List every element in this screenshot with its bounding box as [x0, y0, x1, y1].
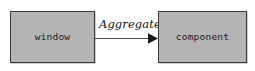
- aggregate-relation-label: Aggregate: [99, 19, 161, 31]
- uml-class-label-component: component: [176, 32, 229, 42]
- aggregate-arrowhead-icon: [148, 33, 158, 44]
- uml-class-box-component[interactable]: component: [158, 11, 247, 63]
- uml-diagram-canvas: window Aggregate component: [0, 0, 255, 71]
